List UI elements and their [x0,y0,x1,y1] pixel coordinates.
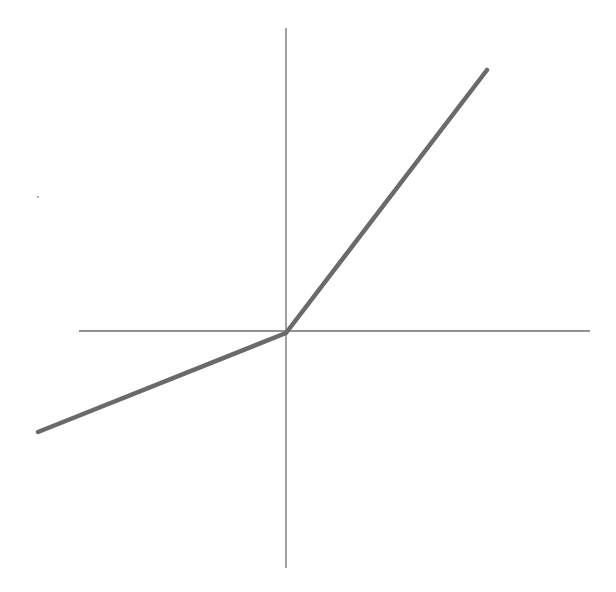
background [0,0,616,592]
activation-function-diagram [0,0,616,592]
stray-dot [37,196,39,198]
